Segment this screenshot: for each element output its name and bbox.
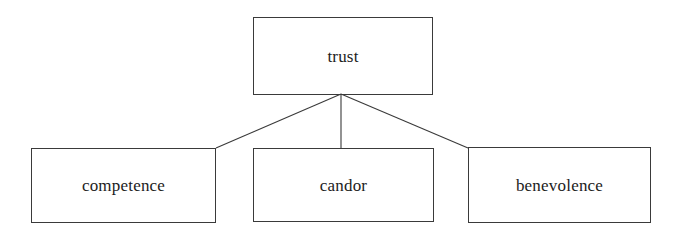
node-candor[interactable]: candor (253, 148, 434, 222)
node-trust-label: trust (327, 48, 358, 65)
edge-trust-to-benevolence (341, 94, 468, 148)
node-trust[interactable]: trust (253, 17, 433, 95)
edge-trust-to-competence (216, 94, 341, 148)
node-competence-label: competence (82, 177, 165, 194)
node-benevolence[interactable]: benevolence (468, 147, 651, 223)
node-competence[interactable]: competence (31, 148, 216, 223)
node-candor-label: candor (320, 177, 367, 194)
diagram-canvas: trust competence candor benevolence (0, 0, 679, 239)
node-benevolence-label: benevolence (516, 177, 603, 194)
